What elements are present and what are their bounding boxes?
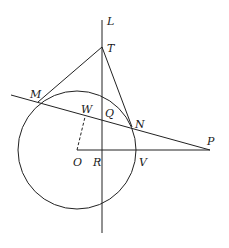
label-R: R — [92, 156, 101, 169]
label-Q: Q — [105, 107, 114, 120]
label-V: V — [139, 156, 148, 169]
label-T: T — [107, 42, 116, 55]
secant-line-MNP — [11, 95, 210, 150]
segment-TM — [38, 47, 102, 102]
label-P: P — [206, 135, 215, 148]
segment-OW-dashed — [77, 117, 85, 150]
label-W: W — [81, 103, 94, 116]
geometry-diagram: L T M W Q N P O R V — [0, 0, 229, 248]
label-N: N — [134, 118, 145, 131]
label-O: O — [73, 156, 82, 169]
label-L: L — [106, 15, 114, 28]
label-M: M — [29, 88, 42, 101]
